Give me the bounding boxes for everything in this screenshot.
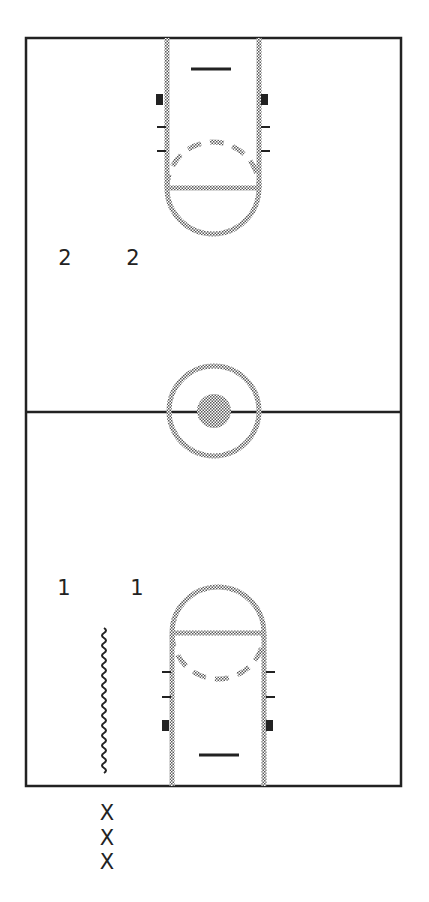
player-1-left: 1 — [57, 578, 70, 599]
player-2-left: 2 — [58, 248, 71, 269]
player-2-right: 2 — [126, 248, 139, 269]
bottom-right-block — [266, 720, 273, 731]
basketball-court — [0, 0, 429, 902]
center-jump-circle — [197, 394, 231, 428]
bottom-left-block — [162, 720, 169, 731]
dribble-path — [102, 628, 106, 773]
player-1-right: 1 — [130, 578, 143, 599]
bottom-key — [162, 587, 275, 786]
top-right-block — [261, 94, 268, 105]
line-player-x-2: X — [100, 828, 114, 849]
line-player-x-1: X — [100, 803, 114, 824]
line-player-x-3: X — [100, 852, 114, 873]
top-left-block — [156, 94, 163, 105]
top-key — [156, 38, 270, 234]
